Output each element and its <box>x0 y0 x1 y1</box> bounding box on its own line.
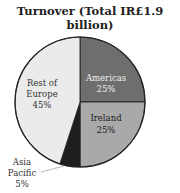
slice-value-americas: 25% <box>97 84 116 94</box>
slice-label-rest-of-europe-line-1: Rest of <box>27 78 58 88</box>
slice-label-asia-pacific-line-1: Asia <box>12 157 31 167</box>
slice-value-asia-pacific: 5% <box>15 179 29 189</box>
slice-label-americas: Americas <box>85 73 126 83</box>
slice-value-ireland: 25% <box>97 125 116 135</box>
asia-pacific-leader-line <box>41 166 64 172</box>
slice-label-rest-of-europe-line-2: Europe <box>26 89 57 99</box>
slice-value-rest-of-europe: 45% <box>33 100 52 110</box>
slice-label-ireland: Ireland <box>90 113 122 123</box>
pie-chart: Americas 25% Ireland 25% Rest of Europe … <box>0 0 180 193</box>
slice-label-asia-pacific-line-2: Pacific <box>8 168 37 178</box>
